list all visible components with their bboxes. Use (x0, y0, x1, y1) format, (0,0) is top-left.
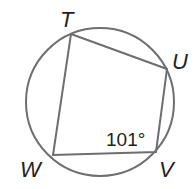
angle-v-measure: 101° (106, 129, 145, 150)
vertex-label-u: U (172, 49, 188, 74)
inscribed-quadrilateral-diagram: T U V W 101° (0, 0, 196, 189)
vertex-label-v: V (159, 157, 176, 182)
vertex-label-w: W (20, 157, 43, 182)
vertex-label-t: T (60, 7, 75, 32)
